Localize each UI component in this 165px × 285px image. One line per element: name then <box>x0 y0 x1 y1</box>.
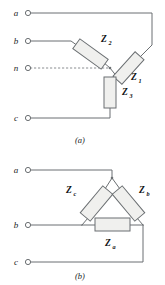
svg-text:c: c <box>74 190 77 197</box>
terminal-label-a: a <box>14 8 19 18</box>
terminal-label-c: c <box>14 113 18 123</box>
svg-text:1: 1 <box>139 77 142 84</box>
terminal-label-b-b: b <box>14 220 19 230</box>
diagram-b: a b c Z a Z b Z c (b) <box>14 165 150 281</box>
svg-text:b: b <box>147 190 150 197</box>
impedance-z3-box <box>104 77 116 108</box>
apex-node-b <box>111 177 114 180</box>
terminal-circle-b <box>25 38 30 43</box>
impedance-za-box <box>95 218 130 231</box>
svg-text:Z: Z <box>65 185 72 195</box>
wire-zb-upper-stub <box>112 178 120 189</box>
impedance-label-z1: Z 1 <box>130 72 142 84</box>
svg-text:Z: Z <box>130 72 137 82</box>
diagram-a: a b n c Z 1 Z 2 Z 3 (a) <box>14 8 152 145</box>
center-node-a <box>109 67 112 70</box>
terminal-circle-b-b <box>25 222 30 227</box>
caption-b: (b) <box>75 271 85 281</box>
terminal-label-n: n <box>14 63 19 73</box>
terminal-circle-a <box>25 10 30 15</box>
svg-text:2: 2 <box>108 39 112 46</box>
svg-text:a: a <box>113 243 116 250</box>
wire-a-to-apex <box>30 170 112 178</box>
wire-b-to-z2 <box>30 41 78 46</box>
terminal-circle-c-b <box>25 259 30 264</box>
terminal-circle-c <box>25 115 30 120</box>
impedance-label-zc: Z c <box>65 185 77 197</box>
wire-zc-upper-stub <box>105 178 112 189</box>
impedance-label-z2: Z 2 <box>100 34 112 46</box>
caption-a: (a) <box>75 135 85 145</box>
wire-c-to-z3 <box>30 108 110 118</box>
svg-text:Z: Z <box>100 34 107 44</box>
impedance-label-z3: Z 3 <box>121 87 133 99</box>
svg-text:Z: Z <box>121 87 128 97</box>
terminal-label-b: b <box>14 36 19 46</box>
svg-text:3: 3 <box>129 92 133 99</box>
terminal-circle-n <box>25 65 30 70</box>
impedance-zc-box <box>80 186 112 221</box>
impedance-label-zb: Z b <box>138 185 150 197</box>
terminal-label-a-b: a <box>14 165 19 175</box>
terminal-label-c-b: c <box>14 257 18 267</box>
terminal-circle-a-b <box>25 167 30 172</box>
svg-text:Z: Z <box>104 238 111 248</box>
svg-text:Z: Z <box>138 185 145 195</box>
three-phase-impedance-diagram: a b n c Z 1 Z 2 Z 3 (a) <box>0 0 165 285</box>
impedance-label-za: Z a <box>104 238 116 250</box>
